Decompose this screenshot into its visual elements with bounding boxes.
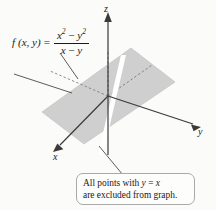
- denominator-operator: −: [66, 44, 78, 56]
- numerator-operator: −: [66, 29, 78, 41]
- formula-denominator: x − y: [58, 44, 86, 57]
- formula-leader-line: [60, 53, 78, 79]
- caption-box: All points with y = x are excluded from …: [76, 173, 195, 205]
- plane-pointer-line: [14, 74, 72, 93]
- denominator-base-2: y: [77, 44, 82, 56]
- formula-fraction: x2 − y2 x − y: [54, 28, 89, 56]
- caption-line-1-prefix: All points with: [83, 178, 142, 188]
- formula-equals: =: [44, 36, 54, 48]
- figure-container: f(x, y) = x2 − y2 x − y z y x All points…: [0, 0, 216, 210]
- caption-equals: =: [146, 178, 156, 188]
- caption-leader-line: [99, 146, 123, 175]
- z-axis-label: z: [104, 3, 108, 14]
- formula-arguments: (x, y): [18, 36, 44, 48]
- caption-line-2: are excluded from graph.: [83, 190, 177, 200]
- y-axis-label: y: [198, 126, 202, 137]
- function-formula: f(x, y) = x2 − y2 x − y: [12, 28, 89, 56]
- caption-variable-x: x: [156, 178, 160, 188]
- x-axis-label: x: [53, 151, 57, 162]
- formula-numerator: x2 − y2: [54, 28, 89, 43]
- numerator-exponent-2: 2: [82, 27, 86, 36]
